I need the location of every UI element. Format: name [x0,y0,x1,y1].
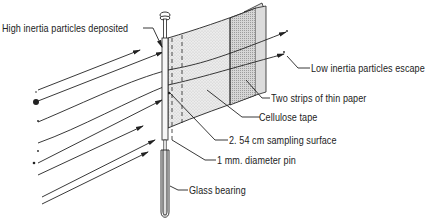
paper-strip-dark [230,8,256,105]
label-sampling-surface: 2. 54 cm sampling surface [229,134,337,146]
paper-strips [168,3,266,128]
label-low-inertia: Low inertia particles escape [311,62,425,74]
label-paper-strips: Two strips of thin paper [271,92,366,104]
label-glass-bearing: Glass bearing [189,184,246,196]
label-cellulose-tape: Cellulose tape [259,111,317,123]
label-pin: 1 mm. diameter pin [217,154,296,166]
label-high-inertia: High inertia particles deposited [2,22,128,34]
